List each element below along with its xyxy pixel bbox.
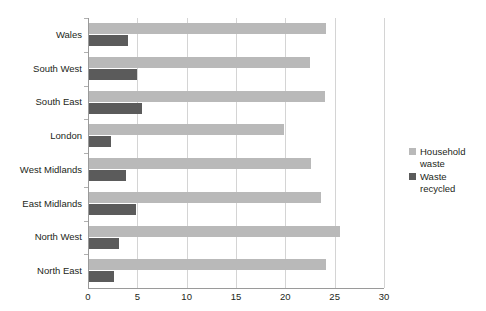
- chart-legend: Household wasteWaste recycled: [409, 146, 483, 196]
- x-tick-label: 0: [85, 291, 90, 303]
- bar-group: [89, 86, 385, 120]
- bar-household-waste: [89, 226, 340, 237]
- bar-waste-recycled: [89, 35, 128, 46]
- bar-chart: WalesSouth WestSouth EastLondonWest Midl…: [0, 0, 486, 311]
- bar-group: [89, 187, 385, 221]
- legend-label: Waste recycled: [420, 171, 455, 194]
- y-axis-tick: [84, 187, 88, 188]
- bar-waste-recycled: [89, 271, 114, 282]
- bar-waste-recycled: [89, 238, 119, 249]
- y-axis-tick: [84, 52, 88, 53]
- x-tick-label: 25: [329, 291, 340, 303]
- bar-group: [89, 52, 385, 86]
- x-tick-label: 30: [379, 291, 390, 303]
- bar-waste-recycled: [89, 204, 136, 215]
- y-axis-label-north-east: North East: [0, 265, 82, 276]
- y-axis-category-labels: WalesSouth WestSouth EastLondonWest Midl…: [0, 18, 82, 288]
- bar-waste-recycled: [89, 69, 137, 80]
- y-axis-tick: [84, 153, 88, 154]
- legend-item: Household waste: [409, 146, 483, 169]
- plot-area: [88, 18, 384, 288]
- y-axis-tick: [84, 119, 88, 120]
- bar-household-waste: [89, 124, 284, 135]
- bar-household-waste: [89, 91, 325, 102]
- x-tick-label: 20: [280, 291, 291, 303]
- bar-group: [89, 221, 385, 255]
- bar-group: [89, 254, 385, 288]
- x-axis-tick-labels: 051015202530: [88, 291, 384, 307]
- legend-swatch-icon: [409, 173, 416, 180]
- x-axis-line: [88, 288, 384, 289]
- bar-household-waste: [89, 158, 311, 169]
- x-tick-label: 15: [231, 291, 242, 303]
- bar-group: [89, 119, 385, 153]
- bar-group: [89, 153, 385, 187]
- bar-waste-recycled: [89, 136, 111, 147]
- bar-group: [89, 18, 385, 52]
- y-axis-tick: [84, 254, 88, 255]
- legend-swatch-icon: [409, 148, 416, 155]
- legend-item: Waste recycled: [409, 171, 483, 194]
- y-axis-label-north-west: North West: [0, 231, 82, 242]
- bar-household-waste: [89, 259, 326, 270]
- y-axis-tick: [84, 221, 88, 222]
- y-axis-tick: [84, 18, 88, 19]
- y-axis-label-wales: Wales: [0, 29, 82, 40]
- bar-waste-recycled: [89, 170, 126, 181]
- legend-label: Household waste: [420, 146, 465, 169]
- y-axis-label-south-west: South West: [0, 63, 82, 74]
- y-axis-tick: [84, 86, 88, 87]
- x-tick-label: 5: [135, 291, 140, 303]
- bar-household-waste: [89, 192, 321, 203]
- bar-household-waste: [89, 57, 310, 68]
- bar-waste-recycled: [89, 103, 142, 114]
- y-axis-label-east-midlands: East Midlands: [0, 198, 82, 209]
- y-axis-label-london: London: [0, 130, 82, 141]
- bar-household-waste: [89, 23, 326, 34]
- y-axis-label-west-midlands: West Midlands: [0, 164, 82, 175]
- y-axis-label-south-east: South East: [0, 96, 82, 107]
- x-tick-label: 10: [181, 291, 192, 303]
